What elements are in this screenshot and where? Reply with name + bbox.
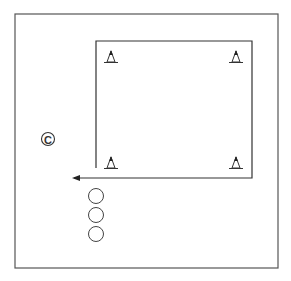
arrow-head-icon <box>72 175 80 181</box>
cone-icon <box>104 50 118 63</box>
cones-group <box>104 50 243 169</box>
player-circle-icon <box>89 208 104 223</box>
cone-icon <box>229 156 243 169</box>
drill-diagram: C <box>0 0 291 281</box>
player-circle-icon <box>89 189 104 204</box>
cone-icon <box>229 50 243 63</box>
run-path-arrow <box>74 41 252 178</box>
player-circle-icon <box>89 227 104 242</box>
players-group <box>89 189 104 242</box>
coach-label: C <box>44 134 52 146</box>
cone-icon <box>104 156 118 169</box>
coach-marker: C <box>42 133 55 146</box>
